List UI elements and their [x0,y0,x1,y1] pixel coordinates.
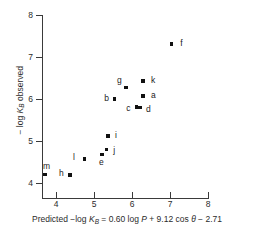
data-point [141,79,144,82]
x-axis-title-tail: − 2.71 [196,214,222,224]
x-tick [94,192,95,198]
data-point-label: f [180,39,182,48]
y-tick-label: 8 [19,11,33,20]
data-point-label: l [73,153,75,162]
data-point [68,173,71,176]
x-tick [208,192,209,198]
x-axis-title-mid: + 9.12 cos [147,214,191,224]
data-point [100,153,103,156]
data-point-label: a [151,91,156,100]
x-tick-label: 4 [49,200,63,209]
data-point [83,157,86,160]
y-tick [36,15,42,16]
data-point-label: j [113,146,115,155]
data-point-label: c [126,104,130,113]
data-point-label: m [43,162,50,171]
x-tick-label: 5 [87,200,101,209]
data-point-label: i [115,131,117,140]
data-point [170,42,173,45]
data-point-label: g [117,76,122,85]
data-point [124,86,127,89]
x-tick [132,192,133,198]
scatter-plot: 45678 45678 − log KB observed Predicted … [0,0,254,242]
x-tick [170,192,171,198]
x-tick [56,192,57,198]
y-tick [36,141,42,142]
data-point [135,105,138,108]
x-tick-label: 8 [201,200,215,209]
x-axis-title-prefix: Predicted −log [32,214,89,224]
data-point-label: k [151,76,155,85]
data-point-label: d [146,105,151,114]
data-point [141,94,144,97]
y-tick [36,57,42,58]
data-point-label: e [99,158,104,167]
data-point [105,148,108,151]
x-tick-label: 6 [125,200,139,209]
x-tick-label: 7 [163,200,177,209]
y-axis-title: − log KB observed [15,35,26,165]
data-point-label: h [59,169,64,178]
y-tick [36,99,42,100]
data-point [43,173,46,176]
data-point [106,134,109,137]
y-axis-title-symbol: K [15,108,25,114]
data-point-label: b [104,94,109,103]
y-axis-title-subscript: B [18,103,25,107]
y-axis-line [42,15,43,199]
data-point [113,97,116,100]
x-axis-title-equals: = 0.60 log [99,214,141,224]
data-point [138,106,141,109]
y-axis-title-tail: observed [15,66,25,103]
y-tick-label: 4 [19,179,33,188]
x-axis-title: Predicted −log KB = 0.60 log P + 9.12 co… [0,214,254,225]
y-axis-title-prefix: − log [15,113,25,134]
y-tick [36,183,42,184]
x-axis-line [42,198,209,199]
